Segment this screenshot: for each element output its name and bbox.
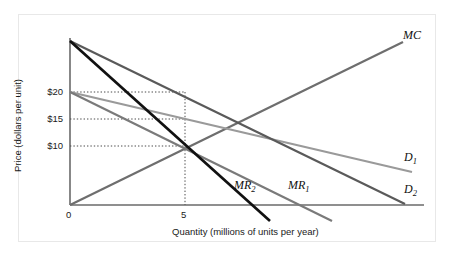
chart-figure: $20 $15 $10 0 5 Price (dollars per unit)… — [0, 0, 455, 258]
y-tick-label-20: $20 — [33, 86, 63, 97]
x-tick-label-5: 5 — [181, 209, 186, 220]
price-guide-lines — [70, 92, 185, 205]
curve-label-d1-sub: 1 — [413, 156, 417, 166]
curve-label-mr2: MR2 — [234, 178, 256, 194]
y-tick-label-10: $10 — [33, 140, 63, 151]
curve-d1 — [70, 92, 412, 172]
curve-label-mr1-text: MR — [288, 178, 305, 192]
curve-label-mr1: MR1 — [288, 178, 310, 194]
x-tick-label-0: 0 — [66, 209, 71, 220]
curve-mr1 — [70, 92, 332, 221]
y-axis-title: Price (dollars per unit) — [12, 71, 23, 181]
curve-label-mr2-text: MR — [234, 178, 251, 192]
curve-label-d2-text: D — [404, 182, 413, 196]
curve-label-d1-text: D — [404, 150, 413, 164]
curve-label-d2: D2 — [404, 182, 417, 198]
curve-label-mr1-sub: 1 — [305, 184, 309, 194]
curve-label-d2-sub: 2 — [413, 188, 417, 198]
curve-label-d1: D1 — [404, 150, 417, 166]
x-axis-title: Quantity (millions of units per year) — [172, 226, 319, 237]
curve-label-mc-text: MC — [403, 28, 421, 42]
curve-label-mr2-sub: 2 — [251, 184, 255, 194]
curve-label-mc: MC — [403, 28, 421, 43]
y-tick-label-15: $15 — [33, 113, 63, 124]
